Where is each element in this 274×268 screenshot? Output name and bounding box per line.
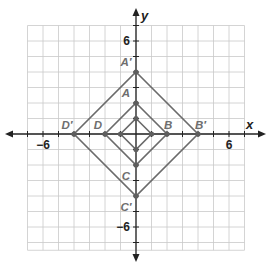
vertex-label: B [164, 119, 172, 131]
y-axis-label: y [140, 8, 149, 23]
vertex-point [149, 131, 154, 136]
axes [5, 8, 266, 262]
tick-label-x: 6 [226, 138, 233, 152]
vertex-point [133, 162, 138, 167]
x-axis-label: x [245, 117, 254, 132]
tick-label-x: −6 [36, 138, 50, 152]
vertex-point [133, 147, 138, 152]
vertex-point [102, 131, 107, 136]
x-axis-arrow-left-icon [5, 131, 13, 138]
vertex-label: D′ [61, 119, 73, 131]
vertex-point [133, 193, 138, 198]
tick-label-y: −6 [116, 220, 130, 234]
vertex-label: C [122, 170, 131, 182]
coordinate-plane-figure: xy−666−6ABCDA′B′C′D′ [0, 0, 274, 268]
vertex-label: B′ [195, 119, 207, 131]
vertex-label: A′ [119, 56, 132, 68]
vertex-label: A [121, 87, 130, 99]
x-axis-arrow-right-icon [258, 131, 266, 138]
vertex-point [133, 116, 138, 121]
tick-label-y: 6 [123, 34, 130, 48]
vertex-point [118, 131, 123, 136]
vertex-point [195, 131, 200, 136]
vertex-point [164, 131, 169, 136]
vertex-label: D [94, 119, 102, 131]
vertex-point [71, 131, 76, 136]
labels: xy−666−6ABCDA′B′C′D′ [36, 8, 254, 234]
coordinate-plane: xy−666−6ABCDA′B′C′D′ [0, 0, 274, 268]
vertex-label: C′ [120, 201, 132, 213]
y-axis-arrow-down-icon [133, 254, 140, 262]
y-axis-arrow-up-icon [133, 8, 140, 16]
vertex-point [133, 100, 138, 105]
vertex-point [133, 69, 138, 74]
